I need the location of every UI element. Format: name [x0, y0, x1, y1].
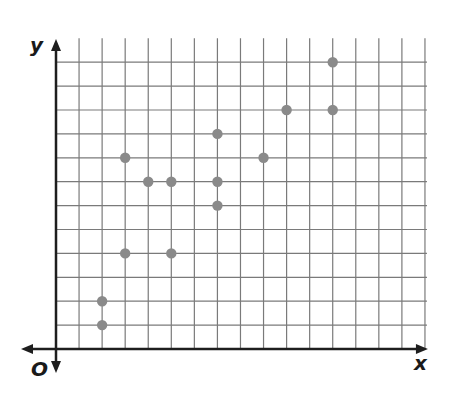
x-axis-label: x: [413, 351, 428, 375]
data-point: [120, 248, 130, 258]
data-point: [328, 57, 338, 67]
data-point: [97, 296, 107, 306]
data-point: [166, 248, 176, 258]
data-point: [281, 105, 291, 115]
data-point: [212, 200, 222, 210]
data-point: [212, 177, 222, 187]
y-axis-arrow-down-icon: [51, 361, 61, 373]
data-point: [212, 129, 222, 139]
data-point: [97, 320, 107, 330]
data-point: [120, 153, 130, 163]
data-point: [258, 153, 268, 163]
grid-lines: [56, 38, 427, 349]
y-axis-arrow-up-icon: [51, 39, 61, 51]
scatter-plot: y x O: [0, 0, 451, 402]
data-point: [328, 105, 338, 115]
data-point: [143, 177, 153, 187]
y-axis-label: y: [30, 33, 44, 57]
x-axis-arrow-left-icon: [21, 344, 33, 354]
origin-label: O: [31, 357, 48, 381]
data-point: [166, 177, 176, 187]
